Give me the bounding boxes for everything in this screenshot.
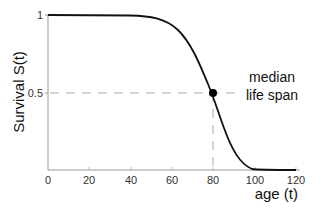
- x-tick-label: 80: [207, 174, 219, 186]
- survival-chart: 1 0.5 0 20 40 60 80 100 120 median life …: [0, 0, 321, 214]
- median-point: [209, 89, 217, 97]
- x-tick-label: 60: [166, 174, 178, 186]
- y-axis-label: Survival S(t): [10, 51, 27, 133]
- x-axis-label: age (t): [255, 185, 298, 202]
- annotation-line2: life span: [246, 87, 298, 103]
- x-tick-label: 20: [83, 174, 95, 186]
- x-tick-label: 0: [45, 174, 51, 186]
- y-tick-label-0.5: 0.5: [28, 87, 43, 99]
- x-tick-label: 40: [125, 174, 137, 186]
- annotation-line1: median: [249, 69, 295, 85]
- y-tick-label-1: 1: [37, 9, 43, 21]
